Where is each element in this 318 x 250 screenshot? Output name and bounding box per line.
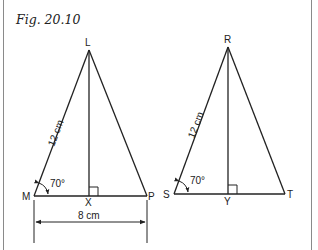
angle-label-s: 70°: [190, 175, 205, 186]
vertex-label-t: T: [287, 189, 293, 200]
vertex-label-r: R: [224, 34, 231, 45]
dimension-label-mp: 8 cm: [78, 210, 100, 221]
vertex-label-x: X: [85, 197, 92, 208]
vertex-label-m: M: [22, 191, 30, 202]
vertex-label-s: S: [163, 189, 170, 200]
vertex-label-l: L: [85, 37, 91, 48]
side-label-rs: 12 cm: [186, 110, 206, 139]
angle-arc-s: [179, 181, 188, 192]
vertex-label-p: P: [148, 191, 155, 202]
vertex-label-y: Y: [224, 196, 231, 207]
side-lp: [89, 50, 147, 196]
right-angle-mark-y: [228, 185, 237, 194]
angle-arc-m: [39, 183, 48, 194]
right-angle-mark-x: [89, 187, 98, 196]
side-rt: [228, 47, 285, 194]
side-label-lm: 12 cm: [46, 118, 66, 147]
angle-label-m: 70°: [50, 178, 65, 189]
